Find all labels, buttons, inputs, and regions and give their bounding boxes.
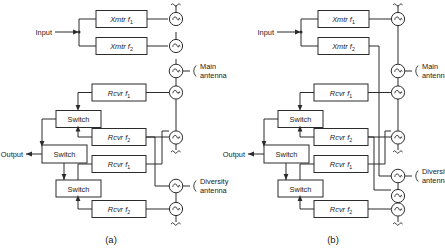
svg-text:Rcvr f2: Rcvr f2 (108, 133, 130, 143)
svg-text:Xmtr f1: Xmtr f1 (109, 15, 133, 25)
input-feed-a (55, 19, 96, 46)
circulator-main-antenna-b (391, 64, 418, 78)
svg-text:Switch: Switch (68, 115, 90, 124)
circulator-rcvr2-main-a (169, 131, 182, 153)
input-label-a: Input (36, 28, 52, 37)
svg-text:antenna: antenna (422, 71, 445, 80)
svg-text:Switch: Switch (276, 150, 298, 159)
circulator-rcvr1-main-a (169, 86, 182, 99)
svg-text:Xmtr f1: Xmtr f1 (331, 15, 355, 25)
caption-a: (a) (105, 234, 117, 245)
rcvr-3-block-a: Rcvr f1 (78, 156, 146, 181)
input-label-b: Input (258, 28, 274, 37)
circulator-xmtr2-a (169, 39, 182, 52)
circulator-diversity-antenna-a (169, 179, 196, 202)
svg-text:Rcvr f2: Rcvr f2 (330, 205, 352, 215)
xmtr-1-block-a: Xmtr f1 (96, 11, 168, 28)
svg-text:Switch: Switch (68, 185, 90, 194)
panel-a: Input Xmtr f1 Xmtr f2 (0, 0, 222, 251)
svg-text:Switch: Switch (290, 115, 312, 124)
circulator-rcvr1-main-b (391, 86, 404, 99)
xmtr-2-block-a: Xmtr f2 (96, 38, 168, 55)
circulator-rcvr2-main-b (391, 131, 404, 153)
rcvr-2-block-a: Rcvr f2 (92, 129, 169, 146)
circulator-xmtr1-a (169, 12, 182, 25)
rcvr-3-block-b: Rcvr f1 (300, 156, 368, 181)
diversity-antenna-label-b: Diversity (422, 167, 445, 176)
circulator-diversity-antenna-b (391, 169, 418, 190)
rcvr-4-block-a: Rcvr f2 (92, 201, 169, 218)
main-antenna-label-a: Main (200, 62, 216, 71)
diversity-routing-a (146, 131, 169, 186)
svg-text:Switch: Switch (54, 150, 76, 159)
svg-text:Rcvr f1: Rcvr f1 (330, 89, 352, 99)
circulator-rcvr2-div-a (169, 202, 182, 225)
output-label-a: Output (1, 150, 23, 159)
svg-text:Rcvr f2: Rcvr f2 (108, 205, 130, 215)
output-label-b: Output (223, 150, 245, 159)
rcvr-1-block-a: Rcvr f1 (76, 84, 169, 111)
svg-text:Xmtr f2: Xmtr f2 (109, 42, 133, 52)
input-feed-b (277, 19, 318, 46)
circulator-main-antenna-a (169, 64, 196, 78)
panel-b: Input Xmtr f1 Xmtr f2 (222, 0, 444, 251)
svg-text:antenna: antenna (422, 176, 445, 185)
main-antenna-label-b: Main (422, 62, 438, 71)
svg-text:Rcvr f2: Rcvr f2 (330, 133, 352, 143)
xmtr-1-block-b: Xmtr f1 (318, 11, 391, 28)
svg-text:Rcvr f1: Rcvr f1 (108, 89, 130, 99)
svg-text:Rcvr f1: Rcvr f1 (108, 160, 130, 170)
rcvr-4-block-b: Rcvr f2 (314, 201, 391, 218)
circulator-rcvr2-div-b (391, 203, 404, 225)
caption-b: (b) (327, 234, 339, 245)
circulator-mid-div-b (391, 189, 404, 203)
svg-text:Xmtr f2: Xmtr f2 (331, 42, 355, 52)
rcvr-1-block-b: Rcvr f1 (298, 84, 391, 111)
circulator-xmtr1-b (391, 12, 404, 25)
svg-text:Switch: Switch (290, 185, 312, 194)
svg-text:Rcvr f1: Rcvr f1 (330, 160, 352, 170)
